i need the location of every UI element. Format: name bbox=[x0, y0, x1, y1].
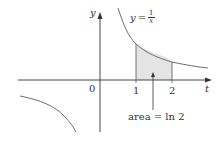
plot-canvas bbox=[0, 0, 220, 142]
curve-label: y = 1 x bbox=[130, 10, 155, 25]
y-axis-label: y bbox=[90, 8, 96, 18]
tick-label-1: 1 bbox=[133, 86, 139, 96]
tick-label-2: 2 bbox=[169, 86, 175, 96]
curve-left-branch bbox=[20, 96, 76, 132]
curve-label-eq: = bbox=[138, 13, 146, 23]
y-axis-arrow-icon bbox=[98, 12, 103, 19]
x-axis-arrow-icon bbox=[205, 78, 212, 83]
origin-label: 0 bbox=[89, 84, 95, 94]
curve-label-lhs: y bbox=[130, 13, 136, 23]
figure: y t 0 1 2 y = 1 x area = ln 2 bbox=[0, 0, 220, 142]
area-annotation: area = ln 2 bbox=[128, 112, 185, 122]
fraction-denominator: x bbox=[149, 18, 153, 25]
curve-label-fraction: 1 x bbox=[148, 10, 154, 25]
x-axis-label: t bbox=[205, 84, 209, 94]
